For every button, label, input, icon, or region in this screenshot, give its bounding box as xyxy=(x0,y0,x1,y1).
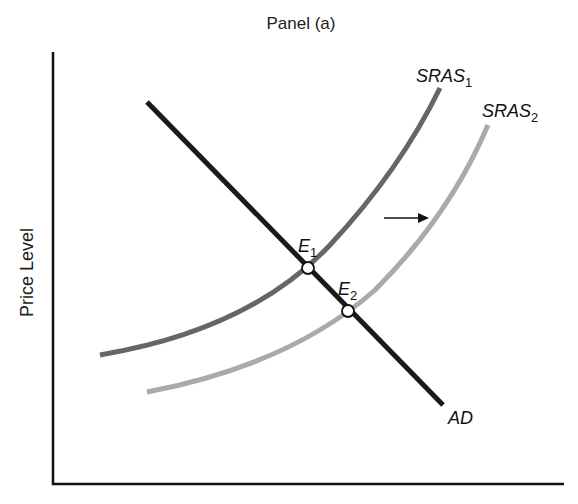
equilibrium-point-e1 xyxy=(302,262,314,274)
ad-line xyxy=(147,102,443,405)
ad-label: AD xyxy=(447,408,473,428)
equilibrium-point-e2 xyxy=(342,305,354,317)
sras1-curve xyxy=(100,88,440,355)
chart-canvas: SRAS1 SRAS2 AD E1 E2 xyxy=(0,0,578,504)
sras1-label: SRAS1 xyxy=(416,66,472,90)
shift-arrow-icon xyxy=(384,213,429,223)
sras2-label: SRAS2 xyxy=(482,101,538,125)
